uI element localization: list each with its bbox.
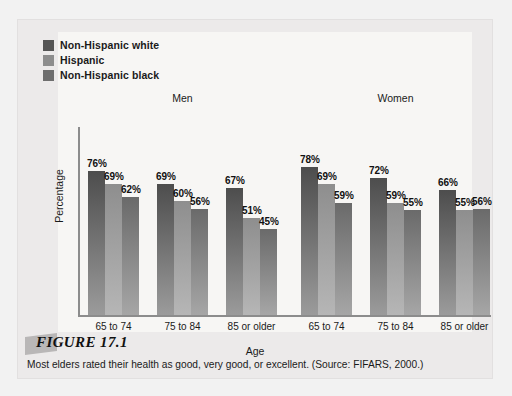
group-header-men: Men: [153, 92, 213, 104]
bar-1-1[interactable]: [174, 201, 191, 315]
bar-1-4[interactable]: [387, 203, 404, 315]
legend-item-2: Non-Hispanic black: [43, 68, 159, 82]
bar-2-2[interactable]: [260, 229, 277, 315]
group-header-women: Women: [366, 92, 426, 104]
bar-0-5[interactable]: [439, 190, 456, 315]
bar-value-0-2: 67%: [225, 175, 245, 186]
category-label-4: 75 to 84: [356, 321, 435, 332]
legend-item-1: Hispanic: [43, 53, 159, 67]
bar-value-2-1: 56%: [190, 196, 210, 207]
bar-0-1[interactable]: [157, 184, 174, 315]
bar-value-0-3: 78%: [300, 154, 320, 165]
bar-0-4[interactable]: [370, 178, 387, 315]
chart-legend: Non-Hispanic white Hispanic Non-Hispanic…: [43, 38, 159, 83]
bar-1-0[interactable]: [105, 184, 122, 315]
legend-label-0: Non-Hispanic white: [60, 39, 159, 51]
bar-value-1-0: 69%: [104, 171, 124, 182]
figure-panel: Non-Hispanic white Hispanic Non-Hispanic…: [18, 20, 492, 378]
bar-2-1[interactable]: [191, 209, 208, 315]
bar-0-2[interactable]: [226, 188, 243, 315]
bar-value-0-0: 76%: [87, 158, 107, 169]
bar-value-0-5: 66%: [438, 177, 458, 188]
legend-swatch-non-hispanic-black: [43, 70, 54, 81]
category-label-2: 85 or older: [212, 321, 291, 332]
bar-2-0[interactable]: [122, 197, 139, 315]
x-axis-line: [78, 315, 491, 317]
bar-0-3[interactable]: [301, 167, 318, 315]
legend-swatch-non-hispanic-white: [43, 40, 54, 51]
bar-0-0[interactable]: [88, 171, 105, 315]
bar-2-5[interactable]: [473, 209, 490, 315]
bar-value-0-1: 69%: [156, 171, 176, 182]
bar-value-1-3: 69%: [317, 171, 337, 182]
bar-1-5[interactable]: [456, 210, 473, 315]
bar-1-3[interactable]: [318, 184, 335, 315]
figure-number: FIGURE 17.1: [36, 334, 128, 351]
y-axis-title: Percentage: [53, 151, 65, 241]
legend-swatch-hispanic: [43, 55, 54, 66]
legend-label-2: Non-Hispanic black: [60, 69, 159, 81]
bar-value-2-4: 55%: [403, 197, 423, 208]
category-label-0: 65 to 74: [74, 321, 153, 332]
bar-value-1-2: 51%: [242, 205, 262, 216]
bar-value-2-3: 59%: [334, 190, 354, 201]
bar-value-2-0: 62%: [121, 184, 141, 195]
category-label-1: 75 to 84: [143, 321, 222, 332]
bar-1-2[interactable]: [243, 218, 260, 315]
category-label-5: 85 or older: [425, 321, 504, 332]
category-label-3: 65 to 74: [287, 321, 366, 332]
bar-2-4[interactable]: [404, 210, 421, 315]
legend-label-1: Hispanic: [60, 54, 105, 66]
bar-value-2-5: 56%: [472, 196, 492, 207]
y-axis-line: [78, 127, 80, 317]
bar-2-3[interactable]: [335, 203, 352, 315]
bar-value-2-2: 45%: [259, 216, 279, 227]
legend-item-0: Non-Hispanic white: [43, 38, 159, 52]
figure-caption: Most elders rated their health as good, …: [27, 358, 482, 371]
bar-value-0-4: 72%: [369, 165, 389, 176]
